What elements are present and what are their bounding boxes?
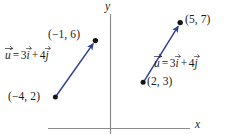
right-vector-shaft (144, 26, 178, 80)
vector-i-symbol: i (27, 50, 31, 62)
x-axis-label: x (195, 119, 200, 131)
y-axis-label: y (105, 1, 110, 13)
right-tail-coordinate-label: (2, 3) (147, 76, 173, 88)
left-vector-tail-dot (53, 95, 58, 100)
vector-i-symbol: i (176, 58, 180, 70)
vector-j-symbol: j (194, 58, 198, 70)
left-vector-shaft (57, 44, 94, 96)
vector-u-symbol: u (5, 50, 11, 62)
vector-j-symbol: j (45, 50, 49, 62)
right-vector-tail-dot (141, 80, 146, 85)
vector-u-symbol: u (154, 58, 160, 70)
left-tail-coordinate-label: (−4, 2) (8, 91, 40, 103)
vector-diagram: y x (−1, 6) (−4, 2) (5, 7) (2, 3) u=3i+4… (0, 0, 237, 139)
equals-sign: = (160, 57, 170, 69)
left-vector-equation: u=3i+4j (5, 50, 49, 62)
right-vector-equation: u=3i+4j (154, 58, 198, 70)
plus-sign: + (30, 49, 40, 61)
plus-sign: + (179, 57, 189, 69)
equals-sign: = (11, 49, 21, 61)
left-vector (53, 38, 98, 100)
right-vector-head-dot (178, 20, 183, 25)
left-head-coordinate-label: (−1, 6) (48, 29, 80, 41)
left-vector-head-dot (93, 38, 98, 43)
right-head-coordinate-label: (5, 7) (185, 14, 211, 26)
